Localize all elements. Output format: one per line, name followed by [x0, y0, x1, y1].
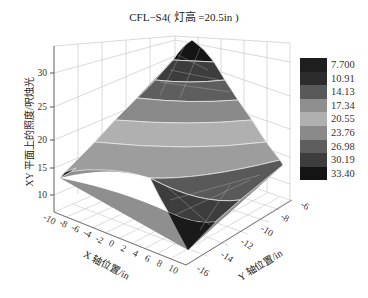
svg-text:-10: -10	[41, 212, 57, 227]
svg-text:4: 4	[131, 248, 140, 259]
svg-text:-8: -8	[279, 211, 291, 224]
svg-text:8: 8	[155, 258, 164, 269]
legend-label: 30.19	[331, 153, 355, 167]
legend-item: 14.13	[300, 85, 355, 99]
legend-label: 7.700	[331, 58, 355, 72]
svg-text:6: 6	[143, 253, 152, 264]
z-tick: 10	[38, 190, 48, 200]
legend-label: 33.40	[331, 167, 355, 181]
legend-label: 17.34	[331, 99, 355, 113]
legend-item: 17.34	[300, 99, 355, 113]
legend-swatch	[300, 99, 327, 113]
svg-text:-14: -14	[219, 249, 235, 264]
legend-swatch	[300, 167, 327, 181]
z-tick: 30	[38, 68, 48, 78]
legend-swatch	[300, 140, 327, 154]
svg-text:-12: -12	[239, 236, 255, 251]
svg-text:-2: -2	[94, 233, 106, 246]
legend-swatch	[300, 58, 327, 72]
svg-text:-6: -6	[299, 199, 311, 212]
legend-item: 30.19	[300, 153, 355, 167]
legend-label: 10.91	[331, 72, 355, 86]
legend-label: 20.55	[331, 112, 355, 126]
legend-swatch	[300, 72, 327, 86]
svg-text:-16: -16	[195, 263, 211, 278]
svg-text:-6: -6	[70, 222, 82, 235]
x-axis-label: X 轴位置/in	[82, 247, 132, 281]
legend-item: 23.76	[300, 126, 355, 140]
legend-label: 14.13	[331, 85, 355, 99]
legend-item: 20.55	[300, 112, 355, 126]
z-axis-label: XY 平面上的照度/呎烛光	[23, 77, 35, 186]
z-tick: 25	[38, 102, 48, 112]
svg-text:2: 2	[119, 243, 128, 254]
y-axis-label: Y 轴位置/in	[236, 246, 285, 283]
z-axis: 10 15 20 25 30 XY 平面上的照度/呎烛光	[23, 46, 54, 212]
svg-text:-10: -10	[259, 223, 275, 238]
z-tick: 20	[38, 135, 48, 145]
svg-text:-8: -8	[58, 217, 70, 230]
svg-text:0: 0	[107, 238, 116, 249]
legend-swatch	[300, 112, 327, 126]
legend-swatch	[300, 85, 327, 99]
legend-swatch	[300, 126, 327, 140]
z-tick: 15	[38, 163, 48, 173]
colorbar-legend: 7.700 10.91 14.13 17.34 20.55 23.76 26.9…	[300, 58, 355, 180]
svg-text:10: 10	[167, 263, 180, 276]
legend-item: 10.91	[300, 72, 355, 86]
legend-label: 23.76	[331, 126, 355, 140]
legend-item: 33.40	[300, 167, 355, 181]
legend-label: 26.98	[331, 140, 355, 154]
legend-item: 26.98	[300, 140, 355, 154]
legend-swatch	[300, 153, 327, 167]
legend-item: 7.700	[300, 58, 355, 72]
svg-text:-4: -4	[82, 227, 94, 240]
